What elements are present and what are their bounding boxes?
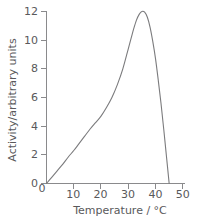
x-tick-label: 50 bbox=[176, 188, 190, 201]
x-tick-label: 0 bbox=[39, 182, 46, 195]
x-axis-title: Temperature / °C bbox=[72, 204, 167, 217]
y-axis-tick-labels: 0 2 4 6 8 10 12 bbox=[24, 5, 38, 190]
x-tick-label: 10 bbox=[66, 188, 80, 201]
activity-curve bbox=[47, 11, 170, 183]
x-tick-label: 30 bbox=[121, 188, 135, 201]
y-tick-label: 6 bbox=[31, 91, 38, 104]
x-tick-label: 20 bbox=[94, 188, 108, 201]
chart-figure: 0 2 4 6 8 10 12 0 10 20 30 40 50 Tempera… bbox=[0, 0, 204, 224]
y-axis-ticks bbox=[41, 12, 47, 184]
y-tick-label: 12 bbox=[24, 5, 38, 18]
x-axis-tick-labels: 0 10 20 30 40 50 bbox=[39, 182, 190, 201]
y-tick-label: 8 bbox=[31, 62, 38, 75]
y-axis-title: Activity/arbitrary units bbox=[6, 38, 19, 162]
y-tick-label: 0 bbox=[31, 177, 38, 190]
y-tick-label: 10 bbox=[24, 34, 38, 47]
y-tick-label: 2 bbox=[31, 148, 38, 161]
activity-temperature-line-chart: 0 2 4 6 8 10 12 0 10 20 30 40 50 Tempera… bbox=[0, 0, 204, 224]
y-tick-label: 4 bbox=[31, 120, 38, 133]
x-tick-label: 40 bbox=[148, 188, 162, 201]
